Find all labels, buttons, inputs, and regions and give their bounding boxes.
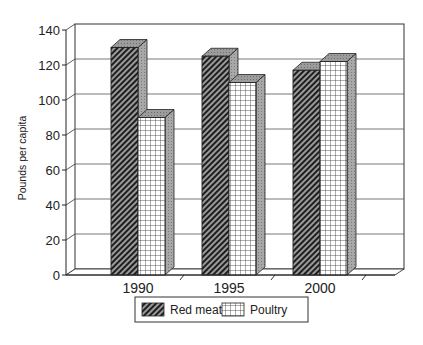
y-tick-label: 140: [38, 23, 60, 38]
y-tick-label: 0: [53, 268, 60, 283]
legend: Red meat Poultry: [135, 297, 308, 322]
bar-poultry-1990: [138, 110, 174, 276]
bar-poultry-1995: [229, 75, 265, 276]
bar-group-1995: [202, 48, 265, 275]
x-tick-label: 2000: [304, 280, 335, 296]
y-tick-label: 20: [46, 233, 60, 248]
x-tick-label: 1990: [122, 280, 153, 296]
bar-poultry-2000: [320, 54, 356, 276]
legend-label-poultry: Poultry: [250, 303, 287, 317]
y-tick-label: 100: [38, 93, 60, 108]
y-tick-label: 80: [46, 128, 60, 143]
legend-label-red-meat: Red meat: [170, 303, 223, 317]
y-axis-title: Pounds per capita: [16, 116, 28, 201]
legend-swatch-poultry: [222, 303, 244, 316]
y-tick-label: 60: [46, 163, 60, 178]
bar-group-2000: [293, 54, 356, 276]
x-tick-label: 1995: [213, 280, 244, 296]
y-tick-label: 40: [46, 198, 60, 213]
x-axis: 199019952000: [66, 275, 395, 296]
legend-swatch-red-meat: [142, 303, 164, 316]
y-axis: 020406080100120140: [38, 23, 66, 283]
y-tick-label: 120: [38, 58, 60, 73]
bar-chart: 020406080100120140 199019952000 Pounds p…: [0, 0, 423, 345]
